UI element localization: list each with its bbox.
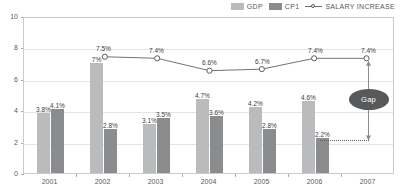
- y-axis-label: 2: [0, 139, 18, 146]
- legend-swatch-cp1: [269, 3, 282, 10]
- x-axis: 2001200220032004200520062007: [23, 174, 394, 196]
- salary-increase-chart: GDP CP1 SALARY INCREASE 0246810 3.8%7%3.…: [0, 0, 401, 196]
- x-axis-tick: [235, 174, 236, 177]
- y-axis-label: 8: [0, 44, 18, 51]
- legend-label-cp1: CP1: [285, 3, 300, 10]
- x-axis-label-2005: 2005: [254, 178, 270, 185]
- y-axis-label: 4: [0, 107, 18, 114]
- x-axis-label-2004: 2004: [201, 178, 217, 185]
- x-axis-tick: [129, 174, 130, 177]
- x-axis-label-2001: 2001: [42, 178, 58, 185]
- legend-swatch-gdp: [231, 3, 244, 10]
- legend-label-salary-increase: SALARY INCREASE: [325, 3, 395, 10]
- x-axis-tick: [182, 174, 183, 177]
- x-axis-tick: [341, 174, 342, 177]
- gap-arrow: [24, 18, 395, 175]
- y-axis-label: 6: [0, 76, 18, 83]
- legend-item-gdp: GDP: [231, 3, 263, 10]
- x-axis-label-2007: 2007: [360, 178, 376, 185]
- legend-item-cp1: CP1: [269, 3, 300, 10]
- plot-area: 3.8%7%3.1%4.7%4.2%4.6%4.1%2.8%3.5%3.6%2.…: [23, 17, 394, 174]
- x-axis-label-2002: 2002: [95, 178, 111, 185]
- gap-ellipse-label: Gap: [349, 89, 389, 110]
- y-axis-label: 10: [0, 13, 18, 20]
- x-axis-tick: [76, 174, 77, 177]
- legend-marker-line-icon: [305, 3, 322, 10]
- x-axis-tick: [288, 174, 289, 177]
- chart-legend: GDP CP1 SALARY INCREASE: [231, 3, 395, 10]
- legend-item-salary-increase: SALARY INCREASE: [305, 3, 395, 10]
- gap-baseline-dotted: [320, 140, 369, 141]
- y-axis-label: 0: [0, 170, 18, 177]
- x-axis-label-2006: 2006: [307, 178, 323, 185]
- legend-label-gdp: GDP: [247, 3, 263, 10]
- x-axis-label-2003: 2003: [148, 178, 164, 185]
